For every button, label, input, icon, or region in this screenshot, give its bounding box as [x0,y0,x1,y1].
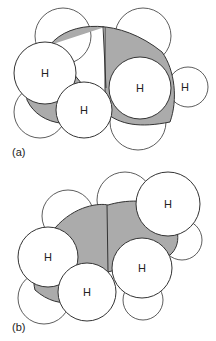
hydrogen-label: H [41,67,49,79]
hydrogen-label: H [136,82,144,94]
panel-a-label: (a) [12,146,25,158]
hydrogen-label: H [80,104,88,116]
hydrogen-label: H [138,262,146,274]
hydrogen-label: H [164,198,172,210]
hydrogen-label: H [44,251,52,263]
hydrogen-label: H [181,81,189,93]
panel-b-label: (b) [12,321,25,333]
molecule-panel-a: HHHH [14,8,208,150]
ethane-conformation-diagram: HHHHHHHH [0,0,216,341]
hydrogen-label: H [83,286,91,298]
molecule-panel-b: HHHH [18,172,202,324]
